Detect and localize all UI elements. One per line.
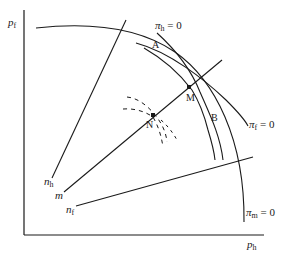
- y-axis-label: pf: [8, 17, 16, 30]
- n-f-sub: f: [72, 208, 75, 217]
- line-m-label: m: [55, 190, 63, 201]
- curve-pi-h-label: πh = 0: [155, 20, 182, 33]
- point-m-label: M: [186, 93, 195, 103]
- line-n-h: [52, 20, 126, 178]
- point-b-label: B: [211, 113, 218, 123]
- x-axis-label: ph: [247, 239, 257, 252]
- line-n-h-label: nh: [44, 176, 54, 189]
- point-a-label: A: [152, 40, 159, 50]
- y-axis-label-sub: f: [14, 21, 17, 30]
- curve-inner: [144, 48, 215, 160]
- curve-pi-f-label: πf = 0: [249, 119, 274, 132]
- line-n-f: [76, 157, 253, 206]
- diagram-canvas: [0, 0, 288, 254]
- n-h-sub: h: [50, 180, 54, 189]
- pi-m-eq: = 0: [258, 206, 275, 218]
- curve-pi-m: [36, 26, 244, 222]
- x-axis-label-sub: h: [253, 243, 257, 252]
- pi-h-eq: = 0: [165, 19, 182, 31]
- point-n-label: N: [146, 120, 153, 130]
- dashed-curve-right: [161, 120, 178, 142]
- line-n-f-label: nf: [66, 204, 74, 217]
- point-m-marker: [187, 85, 191, 89]
- point-n-marker: [151, 113, 155, 117]
- m-main: m: [55, 189, 63, 201]
- pi-f-eq: = 0: [257, 118, 274, 130]
- curve-pi-m-label: πm = 0: [246, 207, 275, 220]
